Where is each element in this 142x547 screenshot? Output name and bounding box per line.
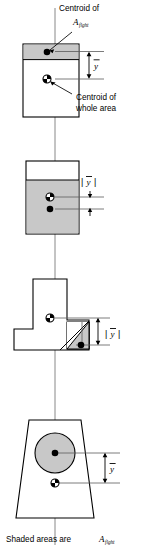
- panel-3-ybar-symbol: y: [110, 329, 115, 339]
- caption-area-symbol: A: [98, 534, 105, 544]
- panel-3-centroid-whole-marker: [46, 314, 54, 322]
- panel-2-ybar-label: | y |: [81, 177, 96, 188]
- panel-1-centroid-shaded-marker: [44, 49, 51, 56]
- callout-2-line-2: whole area: [75, 104, 117, 113]
- panel-3-abs-bar-right: |: [118, 329, 120, 339]
- caption-area-subscript: flght: [105, 539, 115, 545]
- panel-1-centroid-whole-marker: [43, 75, 51, 83]
- centroid-figure: y Centroid of A flght: [0, 0, 142, 547]
- panel-1-dimension-line: [87, 52, 92, 79]
- panel-4-trapezoid-with-circle: y: [16, 420, 120, 518]
- panel-4-ybar-symbol: y: [109, 464, 114, 474]
- panel-1-ybar-label: y: [93, 60, 100, 71]
- panel-2-centroid-shaded-marker: [47, 206, 54, 213]
- centroid-diagram-svg: y Centroid of A flght: [0, 0, 142, 547]
- panel-2-centroid-whole-marker: [46, 193, 54, 201]
- panel-2-shaded-area: [27, 180, 79, 233]
- panel-4-dimension-line: [103, 453, 108, 484]
- panel-3-abs-bar-left: |: [105, 329, 107, 339]
- panel-2-abs-bar-left: |: [81, 177, 83, 187]
- panel-3-ybar-label: | y |: [105, 329, 120, 340]
- panel-3-centroid-shaded-marker: [78, 342, 85, 349]
- caption-text: Shaded areas are: [6, 535, 72, 544]
- panel-2-dimension-line: [88, 191, 92, 216]
- callout-centroid-of-aflght: Centroid of A flght: [59, 4, 100, 28]
- panel-2-ybar-symbol: y: [86, 177, 91, 187]
- panel-1-shaded-area: [24, 45, 79, 60]
- panel-3-tee-section: | y |: [14, 279, 120, 350]
- callout-centroid-of-whole-area: Centroid of whole area: [75, 93, 117, 113]
- panel-4-ybar-label: y: [109, 464, 116, 475]
- callout-1-area-symbol: A: [72, 17, 79, 27]
- figure-caption: Shaded areas are A flght: [6, 534, 115, 545]
- panel-2-rectangle-lower-shaded: | y |: [26, 161, 104, 234]
- panel-3-dimension-line: [96, 318, 101, 346]
- callout-1-area-subscript: flght: [79, 22, 89, 28]
- panel-1-ybar-symbol: y: [93, 61, 98, 71]
- panel-4-centroid-circle-marker: [52, 450, 59, 457]
- callout-2-line-1: Centroid of: [76, 93, 117, 102]
- panel-4-centroid-whole-marker: [51, 479, 59, 487]
- callout-1-line-1: Centroid of: [59, 4, 100, 13]
- panel-2-abs-bar-right: |: [94, 177, 96, 187]
